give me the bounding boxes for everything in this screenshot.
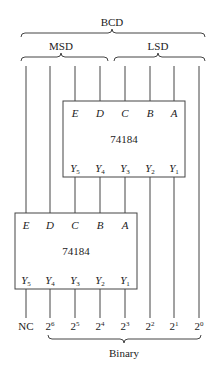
output-2-1: 21 — [170, 320, 180, 332]
bottom-input-b: B — [97, 219, 104, 231]
top-output-y1: Y1 — [169, 162, 179, 176]
top-output-y3: Y3 — [120, 162, 130, 176]
top-input-a: A — [170, 107, 178, 119]
bcd-to-binary-diagram: BCD MSD LSD E D C B A 74184 Y5 Y4 Y3 Y2 … — [0, 0, 218, 374]
msd-label: MSD — [49, 40, 73, 52]
bottom-output-y5: Y5 — [21, 274, 31, 288]
output-nc: NC — [18, 320, 33, 332]
top-chip-name: 74184 — [110, 133, 138, 145]
bottom-input-a: A — [121, 219, 129, 231]
bottom-input-d: D — [45, 219, 54, 231]
bottom-chip-inputs: E D C B A — [22, 219, 129, 231]
bottom-output-y1: Y1 — [120, 274, 130, 288]
msd-brace — [21, 53, 108, 61]
top-output-y5: Y5 — [70, 162, 80, 176]
output-2-6: 26 — [46, 320, 56, 332]
output-2-5: 25 — [71, 320, 81, 332]
bottom-output-y3: Y3 — [70, 274, 80, 288]
bottom-input-c: C — [71, 219, 79, 231]
lsd-label: LSD — [148, 40, 169, 52]
top-input-e: E — [71, 107, 79, 119]
bottom-output-y4: Y4 — [45, 274, 55, 288]
top-output-y2: Y2 — [145, 162, 155, 176]
lsd-brace — [114, 53, 205, 61]
binary-label: Binary — [109, 347, 139, 359]
output-2-4: 24 — [96, 320, 106, 332]
bcd-brace — [21, 29, 205, 37]
top-chip-inputs: E D C B A — [71, 107, 178, 119]
bcd-label: BCD — [101, 16, 124, 28]
output-2-3: 23 — [121, 320, 131, 332]
output-2-2: 22 — [146, 320, 156, 332]
bottom-chip-outputs: Y5 Y4 Y3 Y2 Y1 — [21, 274, 130, 288]
top-output-y4: Y4 — [95, 162, 105, 176]
top-chip-outputs: Y5 Y4 Y3 Y2 Y1 — [70, 162, 179, 176]
top-input-c: C — [121, 107, 129, 119]
top-input-b: B — [147, 107, 154, 119]
binary-output-labels: NC 26 25 24 23 22 21 20 — [18, 320, 204, 332]
bottom-chip-name: 74184 — [62, 245, 90, 257]
top-input-d: D — [95, 107, 104, 119]
bottom-output-y2: Y2 — [95, 274, 105, 288]
binary-brace — [48, 335, 201, 343]
bottom-input-e: E — [22, 219, 30, 231]
output-2-0: 20 — [195, 320, 205, 332]
